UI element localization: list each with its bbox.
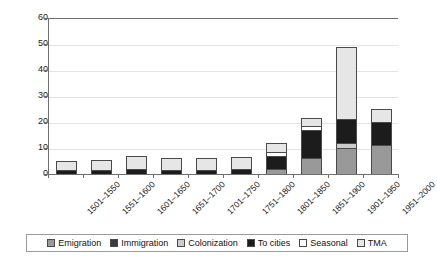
x-tick-mark [48, 174, 49, 178]
bar-segment [371, 145, 392, 174]
bar-segment [371, 122, 392, 145]
legend-swatch-icon [357, 239, 365, 247]
legend-item[interactable]: To cities [247, 239, 291, 248]
y-tick-label: 40 [6, 65, 48, 74]
bar-segment [196, 158, 217, 170]
stacked-bar[interactable] [91, 160, 112, 174]
x-tick-mark [258, 174, 259, 178]
x-tick-mark [153, 174, 154, 178]
x-tick-mark [328, 174, 329, 178]
bar-segment [161, 158, 182, 170]
stacked-bar[interactable] [266, 143, 287, 174]
bar-segment [56, 161, 77, 170]
bar-slot [329, 18, 364, 174]
legend-item[interactable]: Seasonal [299, 239, 348, 248]
y-tick-label: 10 [6, 143, 48, 152]
y-tick-mark [44, 18, 48, 19]
legend-label: Immigration [121, 239, 168, 248]
y-tick-label: 50 [6, 39, 48, 48]
bar-slot [119, 18, 154, 174]
bar-segment [126, 156, 147, 169]
x-axis-label: 1501–1550 [86, 180, 122, 216]
bar-slot [294, 18, 329, 174]
legend-item[interactable]: Colonization [177, 239, 238, 248]
legend-item[interactable]: TMA [357, 239, 387, 248]
x-axis-label: 1951–2000 [401, 180, 437, 216]
x-tick-mark [293, 174, 294, 178]
x-axis-label: 1901–1950 [366, 180, 402, 216]
plot-area [48, 18, 398, 174]
x-axis-label: 1851–1900 [331, 180, 367, 216]
y-tick-mark [44, 70, 48, 71]
bar-segment [231, 157, 252, 169]
bar-slot [259, 18, 294, 174]
stacked-bar[interactable] [56, 161, 77, 174]
legend-swatch-icon [47, 239, 55, 247]
bar-segment [336, 47, 357, 120]
x-axis-label: 1651–1700 [191, 180, 227, 216]
bar-slot [189, 18, 224, 174]
bar-segment [371, 109, 392, 122]
y-tick-label: 30 [6, 91, 48, 100]
stacked-bar[interactable] [371, 109, 392, 174]
y-tick-label: 0 [6, 169, 48, 178]
bar-segment [301, 158, 322, 174]
legend-label: Colonization [188, 239, 238, 248]
legend-label: To cities [258, 239, 291, 248]
stacked-bar[interactable] [336, 47, 357, 174]
legend-swatch-icon [110, 239, 118, 247]
bar-slot [49, 18, 84, 174]
legend-item[interactable]: Immigration [110, 239, 168, 248]
y-axis: 0102030405060 [0, 0, 48, 200]
x-axis-label: 1551–1600 [121, 180, 157, 216]
x-tick-mark [398, 174, 399, 178]
stacked-bar[interactable] [301, 118, 322, 174]
y-tick-label: 60 [6, 13, 48, 22]
x-tick-mark [223, 174, 224, 178]
stacked-bar[interactable] [161, 158, 182, 174]
bar-segment [266, 156, 287, 169]
y-tick-mark [44, 96, 48, 97]
bar-segment [266, 143, 287, 152]
y-tick-mark [44, 122, 48, 123]
stacked-bar[interactable] [126, 156, 147, 174]
bar-segment [301, 130, 322, 159]
legend-label: TMA [368, 239, 387, 248]
chart-legend: EmigrationImmigrationColonizationTo citi… [26, 234, 408, 252]
x-axis-label: 1701–1750 [226, 180, 262, 216]
bar-segment [336, 148, 357, 174]
bar-segment [301, 118, 322, 126]
y-tick-label: 20 [6, 117, 48, 126]
y-tick-mark [44, 148, 48, 149]
x-axis-label: 1751–1800 [261, 180, 297, 216]
x-tick-mark [118, 174, 119, 178]
y-tick-mark [44, 44, 48, 45]
stacked-bar[interactable] [231, 157, 252, 174]
legend-swatch-icon [177, 239, 185, 247]
x-axis-label: 1601–1650 [156, 180, 192, 216]
legend-swatch-icon [247, 239, 255, 247]
x-axis-label: 1801–1850 [296, 180, 332, 216]
legend-item[interactable]: Emigration [47, 239, 101, 248]
legend-label: Seasonal [310, 239, 348, 248]
legend-label: Emigration [58, 239, 101, 248]
x-tick-mark [83, 174, 84, 178]
bar-slot [364, 18, 399, 174]
bar-segment [91, 160, 112, 170]
x-tick-mark [188, 174, 189, 178]
bar-slot [224, 18, 259, 174]
legend-swatch-icon [299, 239, 307, 247]
x-tick-mark [363, 174, 364, 178]
bar-segment [336, 119, 357, 142]
stacked-bar[interactable] [196, 158, 217, 174]
bar-slot [84, 18, 119, 174]
bar-slot [154, 18, 189, 174]
